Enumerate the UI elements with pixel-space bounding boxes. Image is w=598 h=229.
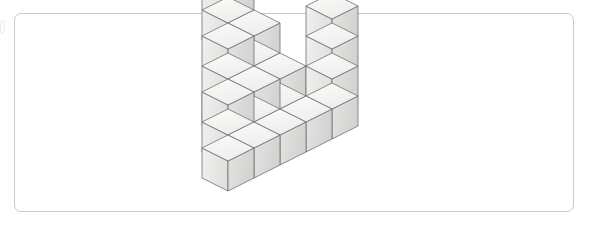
isometric-cube-stack <box>0 0 598 229</box>
figure-panel <box>0 0 598 229</box>
cube-group <box>202 0 358 191</box>
